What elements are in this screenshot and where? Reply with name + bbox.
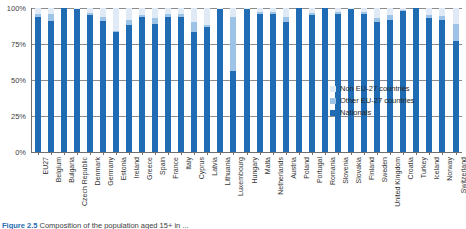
x-tick xyxy=(345,152,358,156)
stacked-bar xyxy=(348,8,354,152)
x-tick xyxy=(253,152,266,156)
bar-column xyxy=(279,8,292,152)
stacked-bar xyxy=(100,8,106,152)
x-label-slot: Denmark xyxy=(83,157,96,219)
stacked-bar xyxy=(178,8,184,152)
bar-segment-non-eu xyxy=(191,8,197,22)
x-label-slot: Turkey xyxy=(410,157,423,219)
stacked-bar xyxy=(87,8,93,152)
x-label-slot: Latvia xyxy=(201,157,214,219)
x-label-slot: Slovenia xyxy=(331,157,344,219)
x-label-slot: Norway xyxy=(436,157,449,219)
x-tick xyxy=(149,152,162,156)
bar-column xyxy=(410,8,423,152)
bar-segment-nationals xyxy=(87,15,93,152)
bar-segment-non-eu xyxy=(139,8,145,15)
legend-item-nationals: Nationals xyxy=(330,108,415,117)
bar-column xyxy=(96,8,109,152)
x-label-slot: Ireland xyxy=(122,157,135,219)
stacked-bar xyxy=(453,8,459,152)
bar-segment-nationals xyxy=(348,9,354,152)
x-label-slot: Sweden xyxy=(371,157,384,219)
stacked-bar xyxy=(61,8,67,152)
legend-swatch-icon xyxy=(330,86,336,92)
x-tick xyxy=(384,152,397,156)
bar-segment-nationals xyxy=(35,17,41,152)
x-tick xyxy=(57,152,70,156)
stacked-bar xyxy=(204,8,210,152)
x-label-slot: Portugal xyxy=(305,157,318,219)
stacked-bar xyxy=(217,8,223,152)
bar-column xyxy=(227,8,240,152)
bar-column xyxy=(70,8,83,152)
legend-item-other-eu: Other EU-27 countries xyxy=(330,96,415,105)
bar-segment-nationals xyxy=(244,9,250,152)
bar-segment-nationals xyxy=(453,41,459,152)
bar-column xyxy=(358,8,371,152)
bar-segment-nationals xyxy=(100,21,106,152)
bar-segment-other-eu xyxy=(453,24,459,41)
y-tick-label: 25% xyxy=(11,113,26,121)
bar-column xyxy=(162,8,175,152)
x-label-slot: Italy xyxy=(175,157,188,219)
bar-segment-nationals xyxy=(322,8,328,152)
bar-segment-nationals xyxy=(230,71,236,152)
x-tick xyxy=(162,152,175,156)
bar-segment-nationals xyxy=(152,24,158,152)
stacked-bar xyxy=(400,8,406,152)
x-tick-label: Switzerland xyxy=(459,157,466,193)
caption-text: Composition of the population aged 15+ i… xyxy=(40,221,189,229)
bar-segment-nationals xyxy=(270,14,276,152)
x-label-slot: Belgium xyxy=(44,157,57,219)
bar-column xyxy=(240,8,253,152)
bar-segment-nationals xyxy=(61,8,67,152)
bar-segment-nationals xyxy=(309,15,315,152)
x-tick xyxy=(292,152,305,156)
legend-swatch-icon xyxy=(330,110,336,116)
bar-column xyxy=(214,8,227,152)
stacked-bar xyxy=(439,8,445,152)
bar-segment-nationals xyxy=(113,32,119,152)
x-label-slot: Netherlands xyxy=(266,157,279,219)
x-tick xyxy=(136,152,149,156)
y-axis-labels: 100% 75% 50% 25% 0% xyxy=(0,0,29,229)
stacked-bar xyxy=(113,8,119,152)
x-label-slot: Switzerland xyxy=(449,157,462,219)
bar-column xyxy=(449,8,462,152)
x-label-slot: Estonia xyxy=(109,157,122,219)
bar-segment-nationals xyxy=(413,8,419,152)
bar-column xyxy=(253,8,266,152)
x-tick xyxy=(266,152,279,156)
x-tick xyxy=(331,152,344,156)
bar-segment-other-eu xyxy=(191,22,197,32)
bar-segment-nationals xyxy=(361,14,367,152)
stacked-bar xyxy=(48,8,54,152)
stacked-bar xyxy=(165,8,171,152)
x-label-slot: Croatia xyxy=(397,157,410,219)
bar-segment-non-eu xyxy=(230,8,236,17)
bar-segment-nationals xyxy=(335,14,341,152)
bar-segment-nationals xyxy=(74,9,80,152)
x-tick xyxy=(122,152,135,156)
x-label-slot: Greece xyxy=(136,157,149,219)
bar-column xyxy=(201,8,214,152)
x-label-slot: Bulgaria xyxy=(57,157,70,219)
x-tick xyxy=(214,152,227,156)
stacked-bar xyxy=(309,8,315,152)
bar-segment-nationals xyxy=(217,9,223,152)
bar-segment-nationals xyxy=(48,21,54,152)
x-label-slot: Germany xyxy=(96,157,109,219)
bar-column xyxy=(345,8,358,152)
y-tick-label: 50% xyxy=(11,77,26,85)
bar-column xyxy=(83,8,96,152)
x-label-slot: Spain xyxy=(149,157,162,219)
bar-column xyxy=(423,8,436,152)
legend-label: Non EU-27 countries xyxy=(340,84,410,93)
x-tick xyxy=(371,152,384,156)
x-tick xyxy=(175,152,188,156)
x-label-slot: Hungary xyxy=(240,157,253,219)
x-axis-ticks xyxy=(31,152,462,156)
x-tick xyxy=(240,152,253,156)
x-label-slot: Luxembourg xyxy=(227,157,240,219)
bar-segment-other-eu xyxy=(48,14,54,21)
